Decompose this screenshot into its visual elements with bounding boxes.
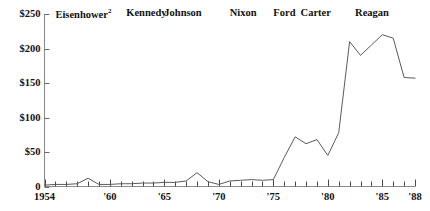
x-tick-label: '65 <box>144 192 184 203</box>
y-tick-label: $50 <box>25 147 41 158</box>
x-tick-label: '88 <box>395 192 430 203</box>
president-label-carter: Carter <box>301 8 331 19</box>
y-tick-label: $100 <box>20 113 41 124</box>
president-label-reagan: Reagan <box>355 8 389 19</box>
x-tick-label: '70 <box>199 192 239 203</box>
y-tick-label: $200 <box>20 44 41 55</box>
president-label-johnson: Johnson <box>164 8 201 19</box>
y-tick-marks <box>45 15 50 188</box>
line-chart-plot <box>0 0 430 211</box>
footnote-marker: 2 <box>108 7 112 15</box>
data-series-line <box>45 35 416 185</box>
chart-root: $250$200$150$100$500 1954'60'65'70'75'80… <box>0 0 430 211</box>
axes-group <box>45 14 416 187</box>
president-label-eisenhower: Eisenhower2 <box>55 8 111 20</box>
president-label-kennedy: Kennedy <box>126 8 166 19</box>
x-tick-label: '60 <box>90 192 130 203</box>
x-tick-label: 1954 <box>25 192 65 203</box>
y-tick-label: $150 <box>20 78 41 89</box>
president-label-ford: Ford <box>273 8 295 19</box>
x-tick-label: '80 <box>308 192 348 203</box>
y-tick-label: $250 <box>20 9 41 20</box>
x-tick-label: '75 <box>253 192 293 203</box>
president-label-nixon: Nixon <box>230 8 257 19</box>
